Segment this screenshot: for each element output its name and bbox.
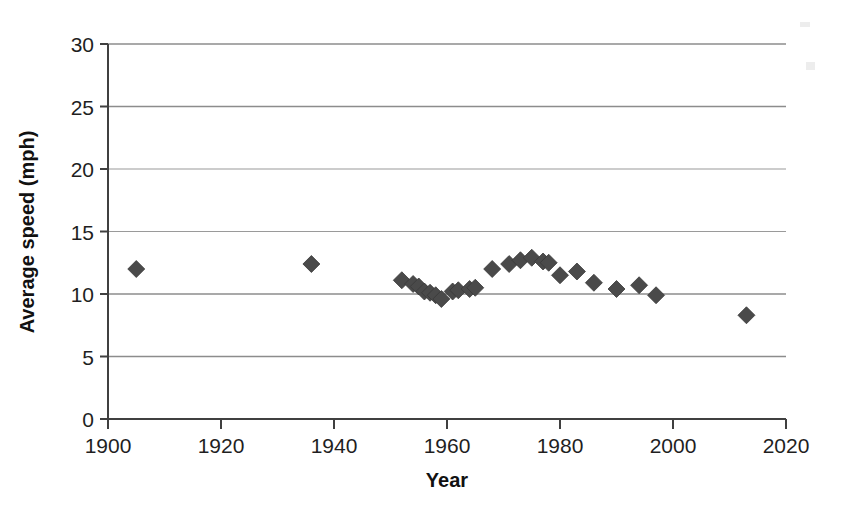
data-point	[738, 307, 755, 324]
x-axis-title: Year	[426, 469, 468, 491]
y-tick-label-0: 0	[82, 408, 94, 431]
y-tick-label-5: 5	[82, 346, 94, 369]
data-point	[648, 287, 665, 304]
data-point	[631, 277, 648, 294]
x-tick-label-1940: 1940	[311, 434, 358, 457]
data-point	[568, 263, 585, 280]
data-point	[484, 261, 501, 278]
data-point-series	[128, 249, 755, 324]
data-point	[552, 267, 569, 284]
data-point	[303, 256, 320, 273]
x-axis-tick-labels: 1900 1920 1940 1960 1980 2000 2020	[85, 434, 810, 457]
y-axis-tick-labels: 30 25 20 15 10 5 0	[71, 33, 94, 431]
y-tick-label-10: 10	[71, 283, 94, 306]
y-axis-ticks	[100, 44, 108, 419]
data-point	[585, 274, 602, 291]
x-tick-label-2000: 2000	[650, 434, 697, 457]
y-tick-label-15: 15	[71, 221, 94, 244]
gridlines	[108, 44, 786, 357]
y-axis-title: Average speed (mph)	[16, 131, 38, 334]
y-tick-label-20: 20	[71, 158, 94, 181]
x-tick-label-1980: 1980	[537, 434, 584, 457]
y-tick-label-30: 30	[71, 33, 94, 56]
scatter-plot: 30 25 20 15 10 5 0 1900 1920 1940 1960 1…	[0, 0, 843, 508]
y-tick-label-25: 25	[71, 96, 94, 119]
x-tick-label-2020: 2020	[763, 434, 810, 457]
x-tick-label-1960: 1960	[424, 434, 471, 457]
chart-container: 30 25 20 15 10 5 0 1900 1920 1940 1960 1…	[0, 0, 843, 508]
data-point	[128, 261, 145, 278]
x-tick-label-1920: 1920	[198, 434, 245, 457]
x-tick-label-1900: 1900	[85, 434, 132, 457]
x-axis-ticks	[108, 419, 786, 429]
data-point	[608, 281, 625, 298]
